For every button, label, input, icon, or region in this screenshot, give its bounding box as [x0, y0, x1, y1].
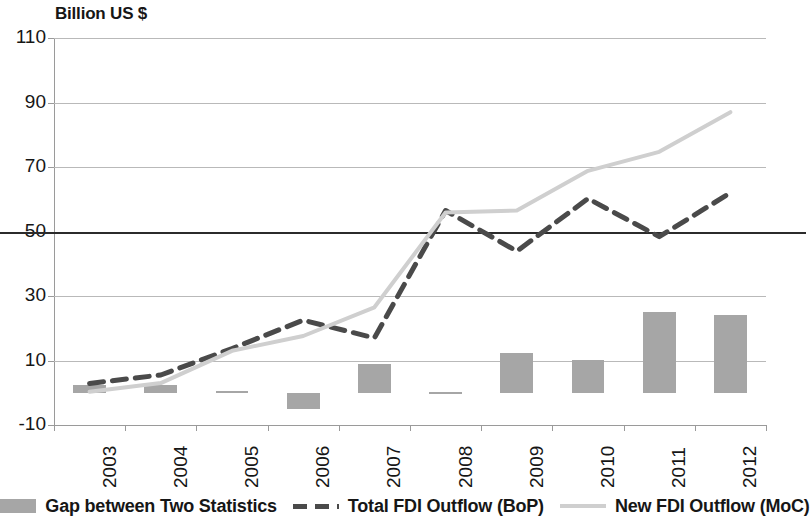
legend-dashed-line-icon: [293, 504, 339, 509]
gridline-70: [54, 167, 766, 168]
bar-2009: [500, 353, 533, 393]
bar-2007: [358, 364, 391, 393]
line-total-fdi-outflow-bop: [90, 193, 731, 384]
bar-2012: [714, 315, 747, 392]
legend-label: New FDI Outflow (MoC): [615, 496, 810, 517]
x-tick-label-2010: 2010: [597, 446, 619, 488]
bar-2006: [287, 393, 320, 409]
y-tick-10: [48, 361, 54, 362]
x-tick-label-2011: 2011: [668, 447, 690, 488]
gridline-110: [54, 38, 766, 39]
legend-item-1[interactable]: Total FDI Outflow (BoP): [293, 496, 544, 517]
bar-2003: [73, 385, 106, 393]
bar-2011: [643, 312, 676, 393]
bar-2010: [572, 360, 605, 393]
y-axis-title: Billion US $: [55, 4, 147, 24]
value-axis-line: [0, 232, 806, 234]
x-tick-label-2009: 2009: [526, 446, 548, 488]
y-tick-label-30: 30: [25, 284, 46, 306]
y-tick-label-110: 110: [16, 26, 46, 48]
legend-label: Total FDI Outflow (BoP): [348, 496, 544, 517]
legend-item-2[interactable]: New FDI Outflow (MoC): [560, 496, 810, 517]
plot-area: [54, 38, 766, 425]
y-tick-label-10: 10: [25, 349, 46, 371]
gridline-90: [54, 103, 766, 104]
x-tick-label-2007: 2007: [383, 446, 405, 488]
y-tick-label--10: -10: [19, 413, 46, 435]
bar-2005: [216, 391, 249, 393]
y-tick-70: [48, 167, 54, 168]
y-tick-label-50: 50: [25, 220, 46, 242]
legend-solid-line-icon: [560, 504, 606, 508]
line-new-fdi-outflow-moc: [90, 112, 731, 392]
y-tick-30: [48, 296, 54, 297]
y-tick-label-70: 70: [25, 155, 46, 177]
bar-2008: [429, 392, 462, 394]
legend-label: Gap between Two Statistics: [45, 496, 277, 517]
x-tick-label-2004: 2004: [170, 446, 192, 488]
x-tick-label-2008: 2008: [455, 446, 477, 488]
gridline-30: [54, 296, 766, 297]
legend-item-0[interactable]: Gap between Two Statistics: [0, 496, 277, 517]
chart-legend: Gap between Two StatisticsTotal FDI Outf…: [0, 492, 806, 520]
x-tick-label-2003: 2003: [99, 446, 121, 488]
x-tick-label-2005: 2005: [241, 446, 263, 488]
x-axis-tick-labels: 2003200420052006200720082009201020112012: [54, 430, 766, 492]
y-tick-90: [48, 103, 54, 104]
x-tick-label-2012: 2012: [739, 446, 761, 488]
y-tick-label-90: 90: [25, 91, 46, 113]
legend-bar-swatch-icon: [0, 499, 36, 513]
y-tick-110: [48, 38, 54, 39]
bar-2004: [144, 385, 177, 393]
x-tick-mark: [766, 425, 767, 431]
x-tick-label-2006: 2006: [312, 446, 334, 488]
